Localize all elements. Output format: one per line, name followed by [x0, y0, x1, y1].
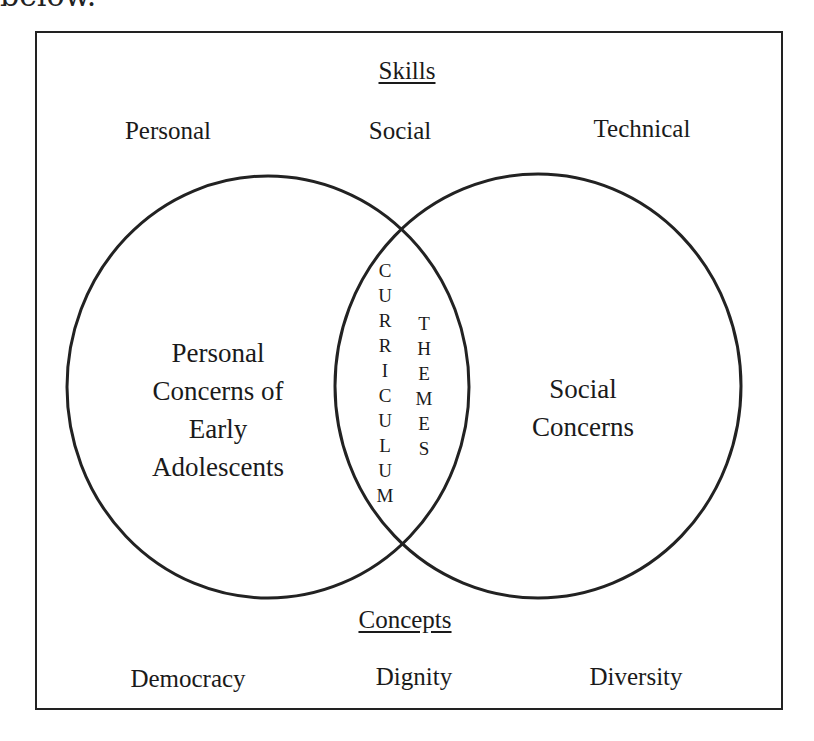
vertical-letter: M [413, 386, 435, 411]
skill-social: Social [369, 117, 432, 145]
concept-diversity: Diversity [589, 663, 682, 691]
vertical-letter: R [374, 308, 396, 333]
left-label-line: Early [152, 410, 284, 448]
vertical-letter: R [374, 333, 396, 358]
vertical-letter: I [374, 358, 396, 383]
vertical-letter: L [374, 433, 396, 458]
vertical-letter: H [413, 336, 435, 361]
skills-header: Skills [379, 57, 436, 85]
themes-vertical-text: THEMES [413, 311, 435, 461]
vertical-letter: T [413, 311, 435, 336]
left-label-line: Personal [152, 334, 284, 372]
vertical-letter: E [413, 411, 435, 436]
left-circle-label: Personal Concerns of Early Adolescents [152, 334, 284, 486]
vertical-letter: U [374, 458, 396, 483]
vertical-letter: S [413, 436, 435, 461]
left-label-line: Concerns of [152, 372, 284, 410]
vertical-letter: C [374, 258, 396, 283]
left-label-line: Adolescents [152, 448, 284, 486]
concepts-header: Concepts [358, 606, 451, 634]
skill-technical: Technical [594, 115, 691, 143]
vertical-letter: U [374, 408, 396, 433]
curriculum-vertical-text: CURRICULUM [374, 258, 396, 508]
right-circle-label: Social Concerns [532, 370, 634, 446]
concept-democracy: Democracy [130, 665, 245, 693]
vertical-letter: U [374, 283, 396, 308]
vertical-letter: C [374, 383, 396, 408]
right-label-line: Concerns [532, 408, 634, 446]
vertical-letter: M [374, 483, 396, 508]
right-label-line: Social [532, 370, 634, 408]
vertical-letter: E [413, 361, 435, 386]
concept-dignity: Dignity [376, 663, 452, 691]
skill-personal: Personal [125, 117, 211, 145]
